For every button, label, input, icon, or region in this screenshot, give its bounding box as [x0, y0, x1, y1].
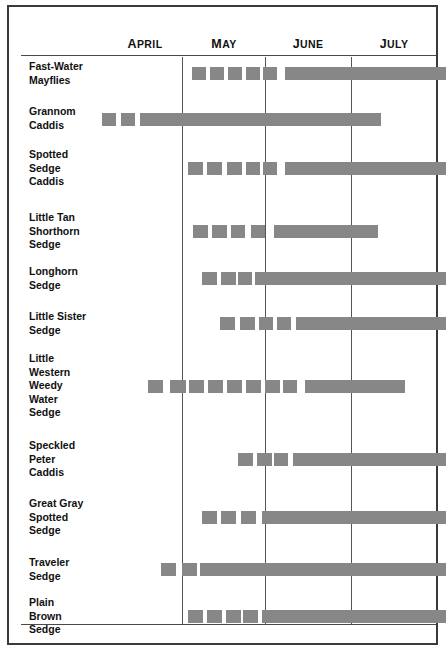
bar-track-little-western-weedy-water-sedge [9, 380, 436, 393]
bar-track-speckled-peter-caddis [9, 453, 436, 466]
gridline-0 [182, 57, 183, 624]
month-label-july: JULY [380, 37, 409, 51]
bar-segment-dash [189, 380, 204, 393]
bar-segment-dash [221, 272, 236, 285]
bar-segment-dash [257, 453, 272, 466]
bar-segment-dash [226, 610, 241, 623]
month-label-may: MAY [211, 37, 236, 51]
bar-segment-dash [263, 67, 277, 80]
hatch-chart-frame: APRILMAYJUNEJULY Fast-Water MayfliesGran… [7, 5, 438, 645]
bar-segment-dash [212, 225, 227, 238]
bar-segment-dash [265, 380, 280, 393]
bar-track-fast-water-mayflies [9, 67, 436, 80]
bar-segment-solid [140, 113, 381, 126]
bar-segment-solid [296, 317, 446, 330]
bar-segment-dash [274, 453, 288, 466]
bar-segment-dash [238, 272, 252, 285]
month-label-june: JUNE [293, 37, 324, 51]
bar-segment-dash [246, 162, 260, 175]
bar-segment-dash [283, 380, 297, 393]
bar-segment-dash [251, 225, 265, 238]
bar-track-great-gray-spotted-sedge [9, 511, 436, 524]
bar-segment-dash [263, 162, 277, 175]
bar-segment-dash [246, 380, 261, 393]
bar-track-little-sister-sedge [9, 317, 436, 330]
bar-segment-solid [262, 511, 446, 524]
bottom-divider-rule [21, 624, 436, 626]
bar-segment-solid [255, 272, 446, 285]
gridline-2 [351, 57, 352, 624]
hatch-chart-body: APRILMAYJUNEJULY Fast-Water MayfliesGran… [9, 7, 436, 643]
bar-segment-dash [170, 380, 186, 393]
bar-track-traveler-sedge [9, 563, 436, 576]
bar-segment-dash [231, 225, 245, 238]
bar-segment-dash [161, 563, 176, 576]
bar-segment-dash [246, 67, 260, 80]
bar-segment-solid [293, 453, 446, 466]
bar-track-little-tan-shorthorn-sedge [9, 225, 436, 238]
bar-segment-solid [285, 162, 446, 175]
bar-segment-dash [207, 610, 222, 623]
bar-segment-dash [238, 453, 253, 466]
bar-segment-dash [148, 380, 163, 393]
bar-segment-solid [274, 225, 378, 238]
bar-segment-dash [121, 113, 135, 126]
bar-segment-solid [262, 610, 446, 623]
bar-segment-solid [285, 67, 446, 80]
month-label-april: APRIL [128, 37, 163, 51]
bar-segment-dash [210, 67, 224, 80]
bar-segment-dash [220, 317, 235, 330]
bar-segment-dash [227, 380, 242, 393]
bar-track-plain-brown-sedge [9, 610, 436, 623]
bar-segment-dash [202, 272, 217, 285]
bar-segment-dash [102, 113, 116, 126]
bar-segment-dash [227, 162, 242, 175]
bar-segment-dash [188, 162, 203, 175]
bar-segment-dash [221, 511, 236, 524]
bar-segment-dash [208, 380, 223, 393]
bar-segment-dash [259, 317, 273, 330]
bar-segment-dash [188, 610, 203, 623]
gridline-1 [265, 57, 266, 624]
bar-segment-dash [241, 511, 256, 524]
bar-segment-dash [182, 563, 197, 576]
bar-track-spotted-sedge-caddis [9, 162, 436, 175]
bar-segment-dash [192, 67, 206, 80]
bar-segment-dash [202, 511, 217, 524]
bar-segment-dash [228, 67, 242, 80]
bar-track-longhorn-sedge [9, 272, 436, 285]
bar-track-grannom-caddis [9, 113, 436, 126]
bar-segment-dash [277, 317, 291, 330]
bar-segment-solid [305, 380, 405, 393]
bar-segment-dash [243, 610, 258, 623]
bar-segment-solid [212, 563, 446, 576]
header-divider-rule [21, 55, 436, 56]
bar-segment-dash [240, 317, 255, 330]
bar-segment-dash [193, 225, 208, 238]
bar-segment-dash [207, 162, 222, 175]
